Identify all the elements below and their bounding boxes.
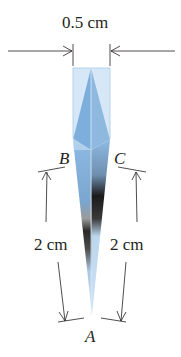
left-length-label: 2 cm [34, 236, 68, 253]
glass-cone [73, 68, 110, 315]
point-b-label: B [59, 150, 69, 167]
right-length-label: 2 cm [110, 236, 144, 253]
width-label: 0.5 cm [62, 14, 108, 31]
point-c-label: C [114, 150, 125, 167]
point-a-label: A [85, 328, 95, 345]
width-dimension [8, 44, 175, 66]
cone-diagram [0, 0, 181, 357]
